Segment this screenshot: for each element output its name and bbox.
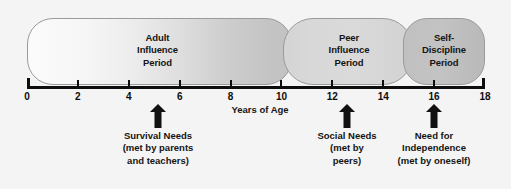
period-label-adult-influence: Adult Influence Period	[137, 32, 178, 68]
axis-tick	[77, 80, 79, 87]
axis-tick	[280, 80, 282, 87]
period-bubble-self-discipline: Self- Discipline Period	[403, 18, 485, 85]
period-label-line: Discipline	[422, 44, 466, 56]
period-label-self-discipline: Self- Discipline Period	[422, 32, 466, 68]
axis-end-cap-left	[27, 78, 30, 89]
period-label-line: Period	[329, 57, 370, 69]
up-arrow-icon	[150, 104, 167, 128]
axis-tick-label: 16	[419, 91, 449, 102]
axis-tick-label: 8	[216, 91, 246, 102]
period-label-line: Influence	[137, 44, 178, 56]
axis-tick	[230, 80, 232, 87]
caption-line: and teachers)	[83, 155, 233, 167]
axis-tick-label: 10	[266, 91, 296, 102]
period-label-line: Adult	[137, 32, 178, 44]
period-label-line: Period	[422, 57, 466, 69]
period-label-line: Period	[137, 57, 178, 69]
up-arrow-icon	[426, 104, 443, 128]
axis-tick-label: 12	[317, 91, 347, 102]
period-label-peer-influence: Peer Influence Period	[329, 32, 370, 68]
caption-line: Survival Needs	[83, 130, 233, 142]
axis-tick-label: 18	[470, 91, 500, 102]
period-bubble-adult-influence: Adult Influence Period	[27, 18, 292, 85]
marker-caption-need-for-independence: Need for Independence (met by oneself)	[359, 130, 509, 167]
marker-caption-survival-needs: Survival Needs (met by parents and teach…	[83, 130, 233, 167]
period-label-line: Peer	[329, 32, 370, 44]
axis-tick	[433, 80, 435, 87]
caption-line: Need for	[359, 130, 509, 142]
period-label-line: Self-	[422, 32, 466, 44]
axis-tick	[128, 80, 130, 87]
axis-end-cap-right	[482, 78, 485, 89]
axis-line	[27, 86, 485, 89]
axis-tick-label: 0	[12, 91, 42, 102]
up-arrow-icon	[339, 104, 356, 128]
period-bubble-peer-influence: Peer Influence Period	[283, 18, 413, 85]
caption-line: Independence	[359, 142, 509, 154]
axis-tick-label: 6	[165, 91, 195, 102]
period-label-line: Influence	[329, 44, 370, 56]
axis-tick	[331, 80, 333, 87]
axis-title: Years of Age	[205, 104, 315, 115]
axis-tick-label: 14	[368, 91, 398, 102]
axis-tick	[179, 80, 181, 87]
axis-tick-label: 4	[114, 91, 144, 102]
caption-line: (met by oneself)	[359, 155, 509, 167]
axis-tick-label: 2	[63, 91, 93, 102]
axis-tick	[382, 80, 384, 87]
developmental-timeline-diagram: Adult Influence Period Peer Influence Pe…	[0, 0, 511, 189]
caption-line: (met by parents	[83, 142, 233, 154]
